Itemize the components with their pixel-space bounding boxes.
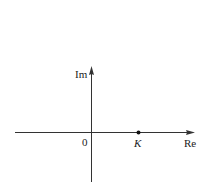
- imaginary-axis-label: Im: [75, 69, 87, 80]
- imaginary-axis-arrow-icon: [89, 66, 94, 75]
- origin-label: 0: [82, 137, 88, 148]
- real-axis-arrow-icon: [186, 130, 195, 135]
- imaginary-axis: [89, 66, 94, 182]
- complex-plane-diagram: [0, 0, 206, 194]
- real-axis: [15, 130, 195, 135]
- point-k-label: K: [134, 138, 141, 149]
- real-axis-label: Re: [184, 138, 196, 149]
- point-k-marker: [137, 131, 141, 135]
